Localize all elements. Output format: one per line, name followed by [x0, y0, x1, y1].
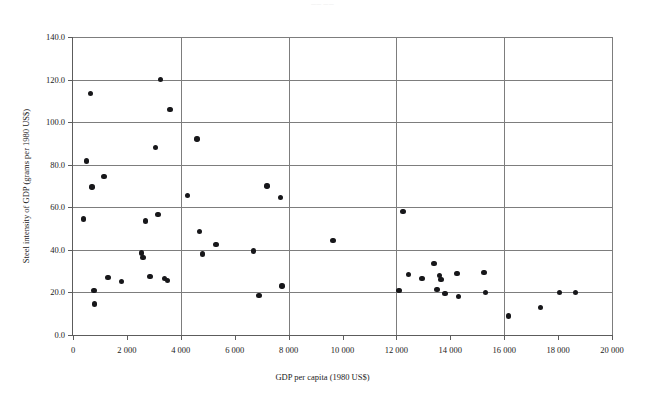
scatter-point	[200, 251, 205, 256]
x-axis-tick	[73, 335, 74, 340]
scatter-point	[197, 229, 202, 234]
scatter-point	[165, 278, 170, 283]
y-axis-tick	[68, 122, 73, 123]
scatter-point	[406, 272, 411, 277]
scatter-point	[454, 271, 459, 276]
scatter-point	[167, 107, 172, 112]
y-axis-tick-label: 100.0	[46, 117, 65, 127]
gridline-horizontal	[73, 122, 612, 123]
y-axis-tick-label: 140.0	[46, 32, 65, 42]
x-axis-tick-label: 6 000	[225, 345, 244, 355]
y-axis-tick-label: 0.0	[54, 330, 65, 340]
gridline-vertical	[289, 37, 290, 335]
scatter-point	[185, 193, 190, 198]
scatter-point	[538, 305, 543, 310]
scatter-point	[153, 145, 158, 150]
scatter-point	[105, 275, 110, 280]
x-axis-tick	[181, 335, 182, 340]
scatter-point	[278, 195, 283, 200]
x-axis-tick-label: 8 000	[279, 345, 298, 355]
x-axis-tick	[396, 335, 397, 340]
gridline-vertical	[181, 37, 182, 335]
scatter-point	[256, 293, 261, 298]
scatter-point	[396, 288, 401, 293]
scatter-point	[147, 274, 152, 279]
scatter-point	[506, 313, 511, 318]
gridline-horizontal	[73, 250, 612, 251]
scatter-point	[88, 91, 93, 96]
y-axis-tick	[68, 37, 73, 38]
scatter-point	[419, 276, 424, 281]
x-axis-tick	[127, 335, 128, 340]
y-axis-title: Steel intensity of GDP (grams per 1980 U…	[21, 109, 31, 263]
scatter-point	[434, 287, 439, 292]
scatter-point	[442, 291, 447, 296]
x-axis-tick-label: 16 000	[493, 345, 516, 355]
scatter-point	[155, 212, 160, 217]
gridline-horizontal	[73, 80, 612, 81]
x-axis-tick-label: 2 000	[117, 345, 136, 355]
scatter-point	[84, 158, 89, 163]
scatter-point	[431, 261, 436, 266]
y-axis-tick-label: 60.0	[50, 202, 65, 212]
scatter-point	[158, 77, 163, 82]
scatter-point	[251, 248, 256, 253]
scatter-point	[483, 290, 488, 295]
x-axis-tick-label: 4 000	[171, 345, 190, 355]
gridline-vertical	[504, 37, 505, 335]
x-axis-tick	[343, 335, 344, 340]
y-axis-tick	[68, 250, 73, 251]
scatter-point	[92, 301, 97, 306]
scatter-point	[101, 174, 106, 179]
scatter-point	[438, 277, 443, 282]
x-axis-tick-label: 20 000	[600, 345, 623, 355]
y-axis-tick	[68, 165, 73, 166]
x-axis-tick-label: 0	[71, 345, 75, 355]
x-axis-tick	[450, 335, 451, 340]
scatter-point	[143, 218, 148, 223]
scatter-point	[81, 216, 86, 221]
scatter-point	[573, 290, 578, 295]
x-axis-tick	[612, 335, 613, 340]
x-axis-tick-label: 10 000	[331, 345, 354, 355]
scatter-point	[89, 184, 94, 189]
scatter-point	[400, 209, 405, 214]
scatter-point	[557, 290, 562, 295]
scatter-point	[264, 183, 269, 188]
scatter-point	[194, 136, 199, 141]
gridline-vertical	[612, 37, 613, 335]
gridline-horizontal	[73, 37, 612, 38]
y-axis-tick	[68, 207, 73, 208]
gridline-horizontal	[73, 165, 612, 166]
x-axis-tick	[289, 335, 290, 340]
x-axis-tick-label: 14 000	[439, 345, 462, 355]
y-axis-tick-label: 40.0	[50, 245, 65, 255]
plot-area: 0.020.040.060.080.0100.0120.0140.002 000…	[72, 37, 612, 336]
scatter-point	[119, 279, 124, 284]
scatter-point	[91, 288, 96, 293]
x-axis-tick-label: 12 000	[385, 345, 408, 355]
x-axis-tick	[504, 335, 505, 340]
y-axis-tick	[68, 292, 73, 293]
y-axis-tick-label: 20.0	[50, 287, 65, 297]
y-axis-tick-label: 80.0	[50, 160, 65, 170]
x-axis-tick-label: 18 000	[546, 345, 569, 355]
scatter-point	[279, 283, 284, 288]
gridline-horizontal	[73, 207, 612, 208]
scatter-point	[213, 242, 218, 247]
x-axis-title: GDP per capita (1980 US$)	[0, 372, 645, 382]
scatter-point	[456, 294, 461, 299]
scatter-point	[330, 238, 335, 243]
figure-container: —— —— 0.020.040.060.080.0100.0120.0140.0…	[0, 0, 645, 397]
y-axis-tick	[68, 80, 73, 81]
x-axis-tick	[235, 335, 236, 340]
gridline-horizontal	[73, 292, 612, 293]
scatter-point	[140, 255, 145, 260]
cropped-caption-fragment: —— ——	[0, 1, 645, 6]
y-axis-tick-label: 120.0	[46, 75, 65, 85]
x-axis-tick	[558, 335, 559, 340]
scatter-point	[481, 270, 486, 275]
